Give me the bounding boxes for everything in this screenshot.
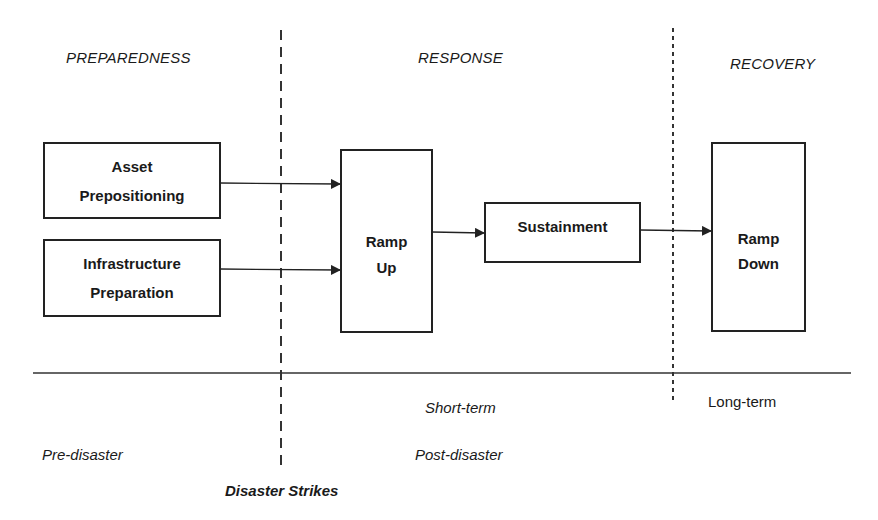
label-long-term: Long-term — [708, 393, 776, 410]
label-pre-disaster: Pre-disaster — [42, 446, 123, 463]
phase-response: RESPONSE — [418, 49, 503, 66]
arrow-asset-to-rampup — [220, 183, 340, 184]
box-ramp-up: Ramp Up — [340, 149, 433, 333]
arrow-rampup-to-sustainment — [432, 232, 484, 233]
arrow-sustainment-to-rampdown — [640, 230, 711, 231]
phase-preparedness: PREPAREDNESS — [66, 49, 191, 66]
label-disaster-strikes: Disaster Strikes — [225, 482, 338, 499]
box-sustainment: Sustainment — [484, 202, 641, 263]
label-post-disaster: Post-disaster — [415, 446, 503, 463]
box-ramp-down: Ramp Down — [711, 142, 806, 332]
arrow-infra-to-rampup — [220, 269, 340, 270]
box-infrastructure-preparation: Infrastructure Preparation — [43, 239, 221, 317]
label-short-term: Short-term — [425, 399, 496, 416]
box-asset-prepositioning: Asset Prepositioning — [43, 142, 221, 219]
phase-recovery: RECOVERY — [730, 55, 815, 72]
